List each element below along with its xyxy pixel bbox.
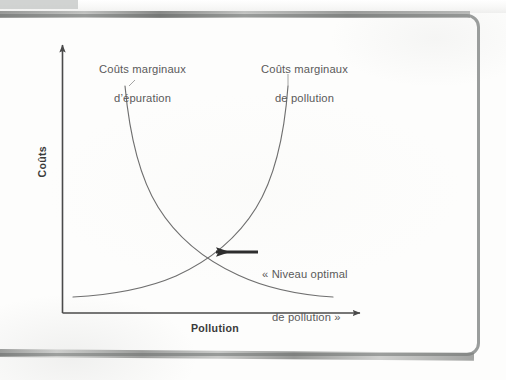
x-axis-title: Pollution (150, 322, 280, 336)
curve-label-marginal-abatement-cost: Coûts marginaux d’épuration (76, 48, 196, 120)
curve-label-abatement-line-1: Coûts marginaux (99, 63, 186, 75)
curve-label-abatement-line-2: d’épuration (114, 92, 171, 104)
y-axis-title: Coûts (36, 127, 50, 197)
annotation-line-1: « Niveau optimal (262, 267, 380, 281)
figure-page: Coûts marginaux d’épuration Coûts margin… (0, 0, 506, 380)
curve-label-marginal-pollution-cost: Coûts marginaux de pollution (238, 48, 358, 120)
curve-label-pollution-line-2: de pollution (275, 92, 334, 104)
curve-label-pollution-line-1: Coûts marginaux (261, 63, 348, 75)
